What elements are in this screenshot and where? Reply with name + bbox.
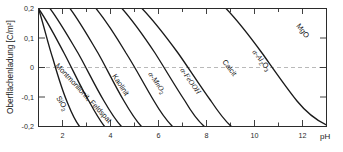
x-axis-ticks [63,120,303,127]
curve-label-mgo: MgO [294,22,311,40]
x-axis-title: pH [320,132,330,141]
x-tick-label-2: 6 [157,131,161,140]
x-tick-label-0: 2 [61,131,65,140]
y-tick-label-3: -0,1 [22,93,34,102]
curve-mgo [226,9,327,126]
y-tick-label-2: 0 [30,63,34,72]
x-tick-label-3: 8 [205,131,209,140]
curve-label-al2o3: α-Al2O3 [250,48,273,74]
x-tick-label-5: 12 [299,131,307,140]
surface-charge-ph-chart: 0,2 0,1 0 -0,1 -0,2 2 4 6 8 10 12 pH Obe… [0,0,343,152]
curve-label-sio2: SiO2 [53,94,70,112]
chart-canvas: 0,2 0,1 0 -0,1 -0,2 2 4 6 8 10 12 pH Obe… [0,0,343,152]
y-tick-label-0: 0,2 [24,4,34,13]
y-axis-title: Oberflächenladung [C/m²] [6,20,15,114]
y-axis-ticks-right [320,38,327,97]
y-tick-label-4: -0,2 [22,122,34,131]
x-tick-label-1: 4 [109,131,113,140]
curve-label-montmorillonit: Montmorillonit, Feldspat [54,61,114,125]
y-tick-label-1: 0,1 [24,34,34,43]
curve-label-kaolinit: Kaolinit [110,72,131,97]
x-tick-label-4: 10 [251,131,259,140]
curve-label-feooh: α-FeOOH [178,66,203,96]
